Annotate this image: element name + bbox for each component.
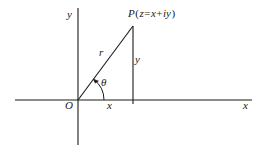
radius-segment xyxy=(78,26,133,100)
origin-label: O xyxy=(65,100,73,111)
argand-diagram-figure: y x O r θ y x P(z=x+iy) xyxy=(0,0,264,152)
horizontal-leg-label: x xyxy=(107,100,112,111)
x-axis-label: x xyxy=(243,100,248,111)
vertical-leg-label: y xyxy=(135,54,140,65)
point-plus: + xyxy=(156,7,163,19)
angle-label: θ xyxy=(101,77,106,88)
y-axis-label: y xyxy=(67,9,72,20)
point-paren-close: ) xyxy=(171,7,176,19)
point-imaginary-part: iy xyxy=(163,7,171,19)
point-label: P(z=x+iy) xyxy=(128,8,176,19)
radius-label: r xyxy=(99,47,103,58)
diagram-canvas xyxy=(0,0,264,152)
point-name: P xyxy=(128,7,135,19)
point-equals: = xyxy=(144,7,151,19)
